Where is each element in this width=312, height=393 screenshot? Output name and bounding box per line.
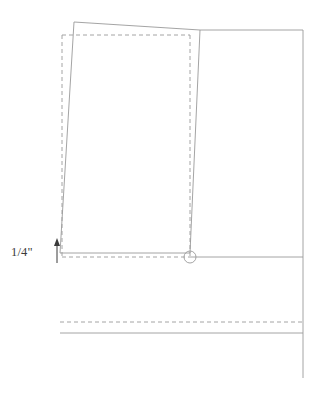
dashed-reference-rectangle: [62, 35, 190, 257]
dimension-label: 1/4": [11, 246, 33, 259]
technical-drawing: 1/4": [0, 0, 312, 393]
right-panel-outline: [200, 30, 303, 378]
dimension-arrow-head: [54, 238, 60, 246]
tilted-panel-right-edge: [190, 30, 200, 253]
tilted-panel-outline: [60, 22, 200, 253]
tilted-panel-top-edge: [74, 22, 200, 30]
diagram-canvas: [0, 0, 312, 393]
up-arrow-icon: [54, 238, 60, 263]
